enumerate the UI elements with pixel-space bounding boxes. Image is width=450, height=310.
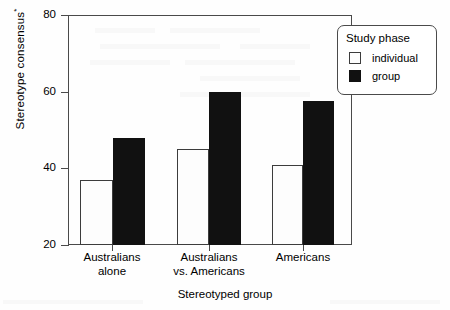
x-group-label-line2: vs. Americans: [149, 264, 269, 278]
y-tick-mark-20: [61, 245, 69, 246]
bar-group-americans: [303, 101, 334, 245]
legend: Study phase individual group: [337, 25, 437, 95]
legend-label-group: group: [372, 70, 400, 82]
legend-item-group: group: [349, 67, 436, 85]
bar-individual-australians-alone: [80, 180, 113, 245]
legend-label-individual: individual: [372, 52, 418, 64]
legend-title: Study phase: [346, 32, 436, 44]
x-axis-title: Stereotyped group: [0, 288, 450, 300]
bar-individual-americans: [272, 165, 303, 246]
bar-group-australians-vs-americans: [209, 92, 241, 245]
y-tick-label-60: 60: [16, 86, 56, 98]
y-tick-label-40: 40: [16, 162, 56, 174]
bar-group-australians-alone: [113, 138, 145, 245]
scan-artifact: [3, 300, 143, 304]
y-tick-label-80: 80: [16, 9, 56, 21]
y-axis-title-text: Stereotype consensus: [14, 12, 26, 130]
figure-bar-chart: Stereotype consensus* 80 60 40 20 Austra…: [0, 0, 450, 310]
bar-individual-australians-vs-americans: [177, 149, 209, 245]
x-group-label-americans: Americans: [243, 250, 363, 264]
x-group-label-line1: Americans: [243, 250, 363, 264]
y-tick-label-20: 20: [16, 239, 56, 251]
scan-artifact: [330, 300, 440, 304]
y-axis-title: Stereotype consensus*: [12, 0, 26, 169]
legend-item-individual: individual: [349, 49, 436, 67]
legend-swatch-individual-icon: [349, 52, 361, 64]
legend-swatch-group-icon: [349, 70, 361, 82]
